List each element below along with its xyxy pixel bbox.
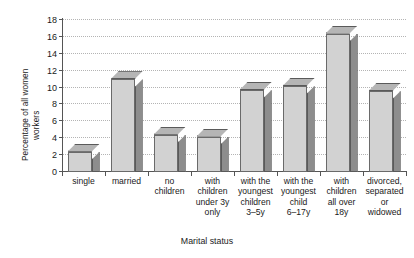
bar-side-face: [178, 135, 186, 172]
bar-3d-body: [68, 144, 100, 172]
x-axis-tick-label-line: no: [148, 176, 191, 186]
bar-top-face: [68, 144, 100, 152]
bar-front-face: [197, 137, 221, 172]
bar: [111, 71, 143, 172]
bar-top-face: [369, 83, 401, 91]
x-axis-tick-label: withchildrenunder 3yonly: [191, 176, 234, 218]
bar: [240, 82, 272, 172]
bar-side-face: [393, 91, 401, 172]
x-axis-tick-label-line: children: [191, 186, 234, 196]
y-axis-title-line-1: Percentage of all women: [21, 69, 30, 161]
bar-3d-body: [240, 82, 272, 172]
bar-side-face: [350, 34, 358, 172]
y-axis-tick-label: 4: [52, 133, 57, 143]
x-axis-tick-label-line: divorced,: [363, 176, 406, 186]
bar-top-face: [197, 129, 229, 137]
bar-side-face: [92, 152, 100, 172]
x-axis-tick-label-line: with: [320, 176, 363, 186]
x-axis-tick-label-line: separated: [363, 186, 406, 196]
x-axis-tick-label-line: single: [62, 176, 105, 186]
bar-front-face: [240, 90, 264, 172]
bar: [197, 129, 229, 172]
bar-series: [62, 20, 406, 172]
x-axis-title: Marital status: [0, 236, 414, 246]
bar-top-face: [240, 82, 272, 90]
bar-front-face: [68, 152, 92, 172]
bar: [369, 83, 401, 172]
x-axis-tick-label: with theyoungestchildren3–5y: [234, 176, 277, 218]
bar-3d-body: [326, 26, 358, 172]
x-axis-tick-label-line: with the: [234, 176, 277, 186]
bar-front-face: [111, 79, 135, 172]
x-axis-tick-label: with theyoungestchild6–17y: [277, 176, 320, 218]
plot-area: 024681012141618: [62, 20, 406, 172]
bar-3d-body: [197, 129, 229, 172]
bar: [283, 78, 315, 172]
x-axis-tick-label: withchildrenall over18y: [320, 176, 363, 218]
y-axis-tick-label: 10: [47, 83, 57, 93]
x-axis-tick-label-line: with: [191, 176, 234, 186]
y-axis-tick-label: 16: [47, 32, 57, 42]
x-axis-tick-label-line: 6–17y: [277, 207, 320, 217]
y-axis-tick-label: 14: [47, 49, 57, 59]
bar: [154, 127, 186, 172]
bar-3d-body: [154, 127, 186, 172]
x-axis-tick-label-line: married: [105, 176, 148, 186]
bar: [68, 144, 100, 172]
x-axis-tick-label-line: children: [234, 197, 277, 207]
bar-side-face: [264, 90, 272, 172]
bar-top-face: [154, 127, 186, 135]
x-axis-tick-label: divorced,separatedorwidowed: [363, 176, 406, 218]
x-axis-tick-label-line: with the: [277, 176, 320, 186]
bar-side-face: [221, 137, 229, 172]
x-axis-tick-label-line: youngest: [234, 186, 277, 196]
y-axis-tick-label: 6: [52, 116, 57, 126]
x-axis-tick-label: married: [105, 176, 148, 186]
x-axis-tick-label: nochildren: [148, 176, 191, 197]
bar-side-face: [135, 79, 143, 172]
x-axis-tick-label-line: children: [320, 186, 363, 196]
bar-side-face: [307, 86, 315, 172]
bar: [326, 26, 358, 172]
x-axis-tick-label-line: youngest: [277, 186, 320, 196]
bar-3d-body: [283, 78, 315, 172]
y-axis-tick-label: 0: [52, 167, 57, 177]
bar-front-face: [326, 34, 350, 172]
x-axis-tick-labels: singlemarriednochildrenwithchildrenunder…: [62, 176, 406, 234]
bar-top-face: [326, 26, 358, 34]
x-axis-tick-label: single: [62, 176, 105, 186]
x-axis-tick-label-line: all over: [320, 197, 363, 207]
bar-top-face: [283, 78, 315, 86]
bar-3d-body: [111, 71, 143, 172]
bar-front-face: [154, 135, 178, 172]
x-axis-tick-mark: [406, 172, 407, 176]
bar-front-face: [369, 91, 393, 172]
x-axis-tick-label-line: children: [148, 186, 191, 196]
y-axis-tick-label: 18: [47, 15, 57, 25]
x-axis-tick-label-line: or: [363, 197, 406, 207]
x-axis-tick-label-line: only: [191, 207, 234, 217]
x-axis-tick-label-line: child: [277, 197, 320, 207]
y-axis-title: Percentage of all women workers: [8, 18, 42, 168]
y-axis-title-line-2: workers: [32, 111, 41, 140]
x-axis-tick-label-line: 3–5y: [234, 207, 277, 217]
y-axis-tick-label: 2: [52, 150, 57, 160]
bar-top-face: [111, 71, 143, 79]
y-axis-tick-label: 12: [47, 66, 57, 76]
x-axis-tick-label-line: 18y: [320, 207, 363, 217]
x-axis-tick-label-line: under 3y: [191, 197, 234, 207]
bar-chart-figure: Percentage of all women workers 02468101…: [0, 0, 414, 258]
bar-front-face: [283, 86, 307, 172]
bar-3d-body: [369, 83, 401, 172]
y-axis-tick-label: 8: [52, 99, 57, 109]
x-axis-tick-label-line: widowed: [363, 207, 406, 217]
